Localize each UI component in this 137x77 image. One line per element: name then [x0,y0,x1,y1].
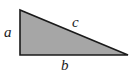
side-label-b: b [61,58,69,73]
side-label-a: a [4,25,12,40]
side-label-c: c [72,15,79,30]
right-triangle-figure: a c b [0,0,137,77]
